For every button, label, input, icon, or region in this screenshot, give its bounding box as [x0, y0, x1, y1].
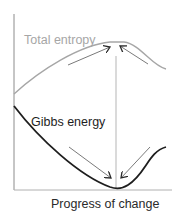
entropy-left-arrow	[68, 47, 110, 65]
gibbs-energy-label: Gibbs energy	[31, 115, 106, 129]
gibbs-right-arrow	[121, 147, 150, 178]
total-entropy-curve	[14, 42, 166, 94]
direction-arrows	[68, 46, 150, 178]
gibbs-left-arrow	[69, 147, 111, 178]
entropy-right-arrow	[120, 46, 148, 64]
thermodynamics-diagram: Total entropy Gibbs energy Progress of c…	[0, 0, 179, 215]
total-entropy-label: Total entropy	[24, 33, 96, 47]
x-axis-label: Progress of change	[51, 197, 159, 211]
